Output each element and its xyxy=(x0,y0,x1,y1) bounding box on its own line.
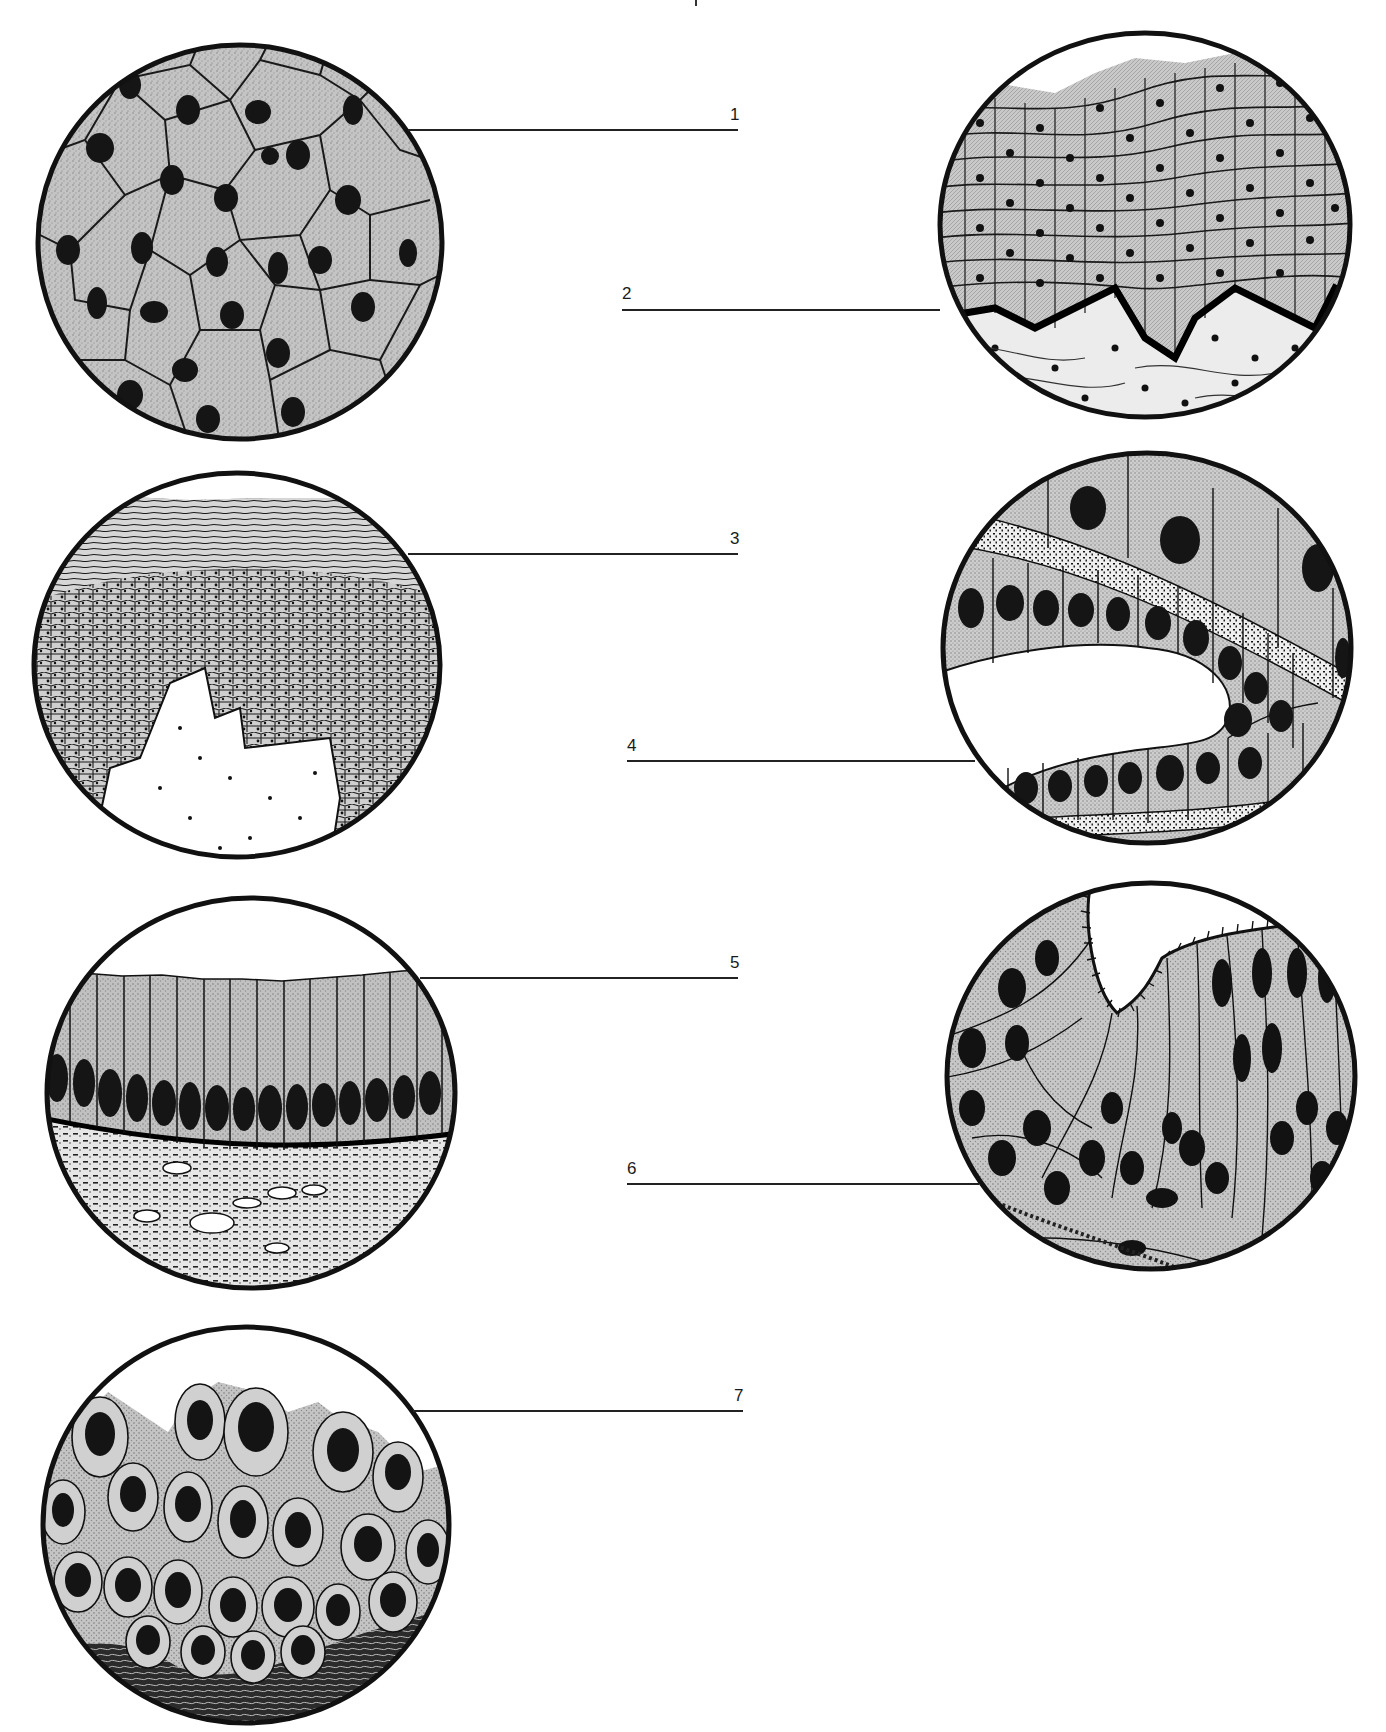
label-number-4: 4 xyxy=(627,737,636,754)
leader-line-6 xyxy=(627,1183,979,1185)
figure-2-stratified-squamous xyxy=(935,28,1355,423)
figure-3-stratified-keratinized xyxy=(30,468,445,863)
label-number-7: 7 xyxy=(734,1387,743,1404)
micrograph-circle-4 xyxy=(938,448,1356,848)
label-number-2: 2 xyxy=(622,285,631,302)
page-top-tick xyxy=(695,0,697,6)
micrograph-circle-5 xyxy=(42,893,460,1293)
leader-line-5 xyxy=(420,977,738,979)
leader-line-2 xyxy=(622,309,940,311)
micrograph-circle-2 xyxy=(935,28,1355,423)
micrograph-circle-1 xyxy=(30,40,450,445)
figure-6-pseudostratified-ciliated xyxy=(942,878,1360,1274)
micrograph-circle-7 xyxy=(38,1322,454,1728)
figure-5-simple-columnar xyxy=(42,893,460,1293)
figure-1-simple-squamous xyxy=(30,40,450,445)
leader-line-4 xyxy=(627,760,975,762)
micrograph-circle-3 xyxy=(30,468,445,863)
label-number-6: 6 xyxy=(627,1160,636,1177)
leader-line-3 xyxy=(408,553,738,555)
label-number-5: 5 xyxy=(730,954,739,971)
leader-line-1 xyxy=(408,129,738,131)
figure-4-simple-cuboidal xyxy=(938,448,1356,848)
leader-line-7 xyxy=(413,1410,743,1412)
figure-7-transitional xyxy=(38,1322,454,1728)
label-number-1: 1 xyxy=(730,106,739,123)
label-number-3: 3 xyxy=(730,530,739,547)
micrograph-circle-6 xyxy=(942,878,1360,1274)
